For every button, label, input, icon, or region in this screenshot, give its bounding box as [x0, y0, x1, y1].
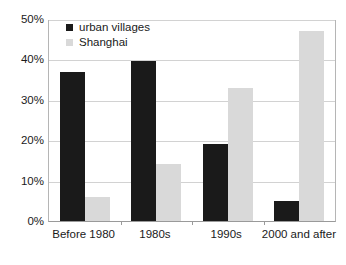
- x-axis-tick-label: 2000 and after: [262, 228, 336, 241]
- y-axis-tick-label: 10%: [0, 176, 44, 188]
- legend-swatch-icon: [66, 39, 73, 46]
- x-axis: Before 19801980s1990s2000 and after: [48, 228, 336, 241]
- y-axis-tick-label: 0%: [0, 216, 44, 228]
- legend-swatch-icon: [66, 24, 73, 31]
- bar-shanghai: [228, 88, 253, 221]
- legend-label: urban villages: [79, 22, 150, 34]
- plot-area: [48, 20, 336, 222]
- legend-item: Shanghai: [66, 37, 150, 49]
- bar-urban-villages: [203, 144, 228, 221]
- y-axis-tick-label: 20%: [0, 135, 44, 147]
- y-axis-tick-label: 30%: [0, 95, 44, 107]
- y-axis: 0%10%20%30%40%50%: [0, 0, 44, 265]
- x-axis-tick: [264, 221, 265, 225]
- bar-group: [121, 20, 193, 221]
- bar-group: [192, 20, 264, 221]
- legend: urban villagesShanghai: [66, 22, 150, 48]
- bars-layer: [49, 20, 335, 221]
- bar-shanghai: [156, 164, 181, 221]
- bar-urban-villages: [131, 61, 156, 221]
- y-axis-tick-label: 40%: [0, 55, 44, 67]
- bar-group: [264, 20, 336, 221]
- bar-chart: 0%10%20%30%40%50% Before 19801980s1990s2…: [0, 0, 346, 265]
- legend-label: Shanghai: [79, 37, 128, 49]
- x-axis-tick-label: Before 1980: [48, 228, 119, 241]
- x-axis-tick-label: 1980s: [119, 228, 190, 241]
- y-axis-tick-label: 50%: [0, 14, 44, 26]
- bar-urban-villages: [274, 201, 299, 221]
- bar-shanghai: [299, 31, 324, 221]
- legend-item: urban villages: [66, 22, 150, 34]
- x-axis-tick: [121, 221, 122, 225]
- x-axis-tick-label: 1990s: [191, 228, 262, 241]
- x-axis-tick: [192, 221, 193, 225]
- bar-urban-villages: [60, 72, 85, 221]
- bar-shanghai: [85, 197, 110, 221]
- bar-group: [49, 20, 121, 221]
